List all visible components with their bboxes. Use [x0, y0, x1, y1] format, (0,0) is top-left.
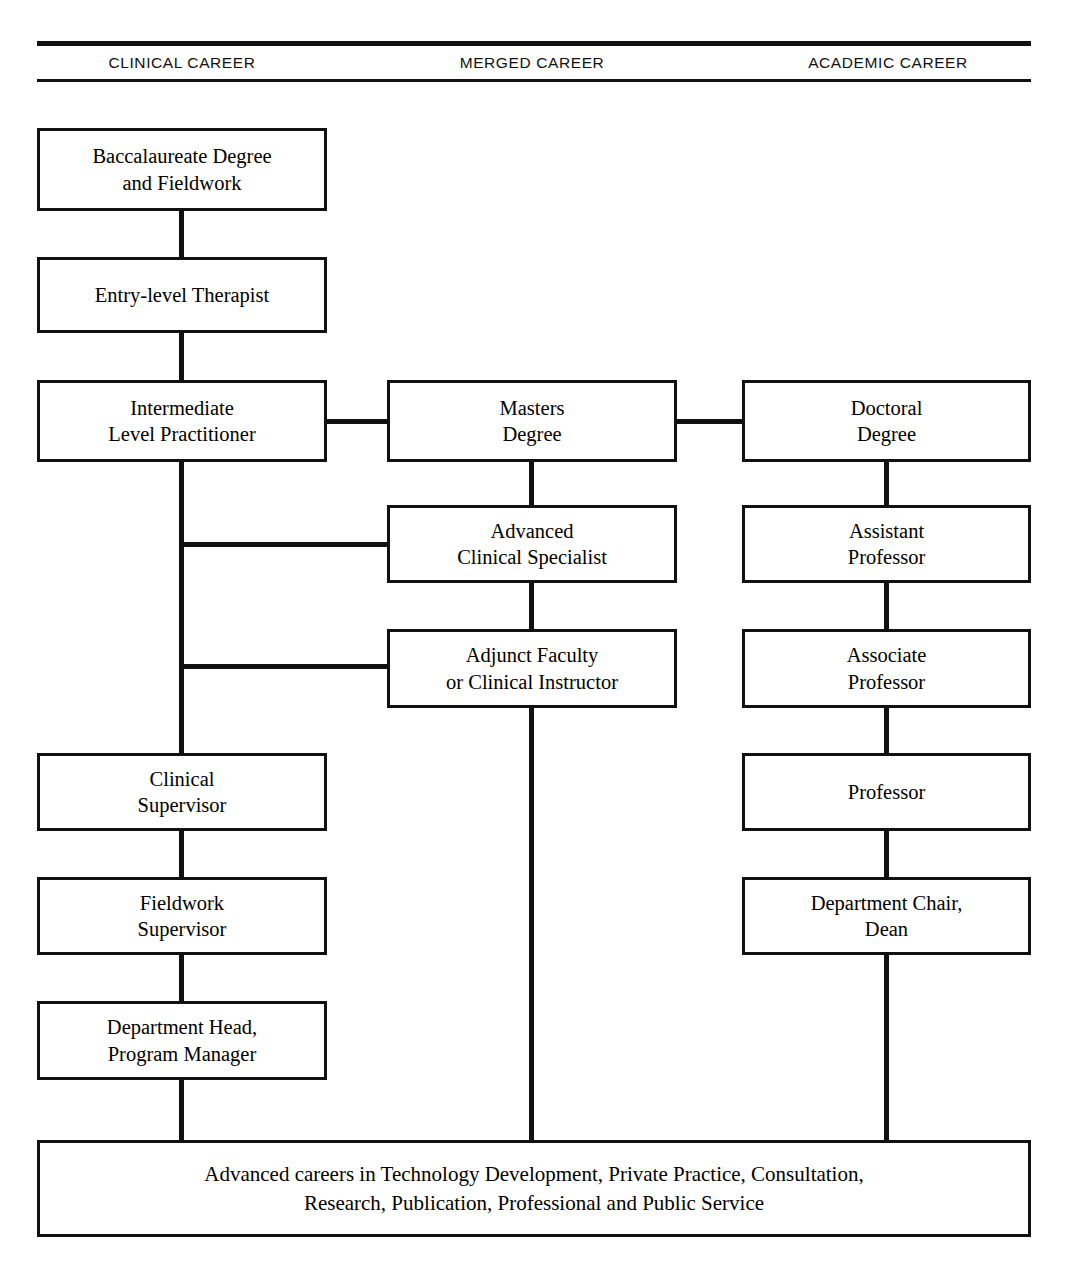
- connector-merged-spine-to-banner: [529, 706, 534, 1142]
- node-baccalaureate-degree: Baccalaureate Degree and Fieldwork: [37, 128, 327, 211]
- header-rule-top: [37, 41, 1031, 46]
- connector-masters-to-doctoral: [675, 419, 744, 424]
- connector-spine-to-adjunct-faculty: [179, 664, 391, 669]
- connector-intermediate-to-masters: [325, 419, 391, 424]
- connector-department-head-to-banner: [179, 1078, 184, 1142]
- node-clinical-supervisor: Clinical Supervisor: [37, 753, 327, 831]
- connector-professor-to-department-chair: [884, 829, 889, 879]
- connector-department-chair-to-banner: [884, 953, 889, 1142]
- node-masters-degree: Masters Degree: [387, 380, 677, 462]
- connector-masters-to-advanced-specialist: [529, 459, 534, 509]
- connector-doctoral-to-assistant: [884, 459, 889, 509]
- node-intermediate-level-practitioner: Intermediate Level Practitioner: [37, 380, 327, 462]
- node-doctoral-degree: Doctoral Degree: [742, 380, 1031, 462]
- column-header-clinical: CLINICAL CAREER: [42, 51, 322, 75]
- node-department-head: Department Head, Program Manager: [37, 1001, 327, 1080]
- connector-assistant-to-associate: [884, 581, 889, 631]
- column-header-academic: ACADEMIC CAREER: [748, 51, 1028, 75]
- connector-associate-to-professor: [884, 706, 889, 756]
- connector-spine-to-advanced-specialist: [179, 542, 391, 547]
- connector-entry-to-intermediate: [179, 331, 184, 381]
- connector-clinical-supervisor-to-fieldwork: [179, 829, 184, 879]
- flowchart-canvas: CLINICAL CAREER MERGED CAREER ACADEMIC C…: [0, 0, 1066, 1279]
- connector-clinical-spine: [179, 459, 184, 755]
- connector-advanced-specialist-to-adjunct: [529, 581, 534, 631]
- node-associate-professor: Associate Professor: [742, 629, 1031, 708]
- header-rule-bottom: [37, 79, 1031, 82]
- connector-fieldwork-to-department-head: [179, 953, 184, 1003]
- node-assistant-professor: Assistant Professor: [742, 505, 1031, 583]
- node-professor: Professor: [742, 753, 1031, 831]
- connector-baccalaureate-to-entry: [179, 209, 184, 257]
- node-advanced-careers-banner: Advanced careers in Technology Developme…: [37, 1140, 1031, 1237]
- node-adjunct-faculty: Adjunct Faculty or Clinical Instructor: [387, 629, 677, 708]
- node-entry-level-therapist: Entry-level Therapist: [37, 257, 327, 333]
- node-advanced-clinical-specialist: Advanced Clinical Specialist: [387, 505, 677, 583]
- column-header-merged: MERGED CAREER: [392, 51, 672, 75]
- node-department-chair-dean: Department Chair, Dean: [742, 877, 1031, 955]
- node-fieldwork-supervisor: Fieldwork Supervisor: [37, 877, 327, 955]
